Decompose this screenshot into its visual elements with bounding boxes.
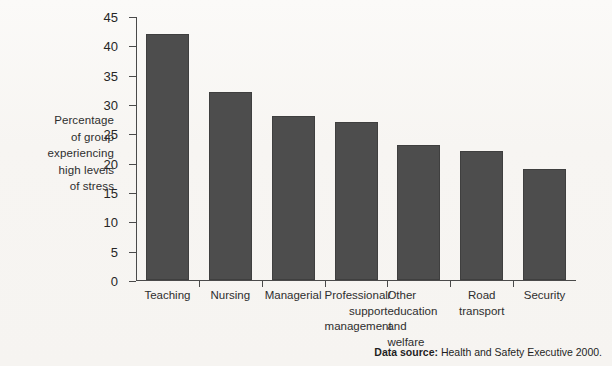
x-axis-label-line: support [325, 304, 388, 320]
source-note: Data source: Health and Safety Executive… [374, 346, 602, 358]
y-axis-line [136, 17, 137, 281]
y-axis-title-line: high levels [18, 162, 114, 179]
y-axis-tick: 45 [129, 17, 136, 18]
y-axis-tick: 5 [129, 252, 136, 253]
bar [335, 122, 378, 280]
y-axis-tick-label: 25 [104, 127, 118, 142]
x-axis-label-line: Security [513, 288, 576, 304]
y-axis-tick: 15 [129, 193, 136, 194]
y-axis-tick-label: 20 [104, 156, 118, 171]
x-axis-label: Security [513, 288, 576, 304]
x-axis-tick [262, 281, 263, 287]
y-axis-tick: 25 [129, 134, 136, 135]
bar [272, 116, 315, 280]
x-axis-label: Roadtransport [450, 288, 513, 319]
bar [146, 34, 189, 280]
x-axis-label-line: Professional/ [325, 288, 388, 304]
y-axis-title-line: of stress [18, 178, 114, 195]
source-text: Health and Safety Executive 2000. [441, 346, 602, 358]
bar [523, 169, 566, 280]
x-axis-tick [387, 281, 388, 287]
plot-area: 051015202530354045 [136, 17, 576, 281]
x-axis-label-line: transport [450, 304, 513, 320]
x-axis-label-line: Other [387, 288, 450, 304]
y-axis-tick-label: 35 [104, 68, 118, 83]
x-axis-tick [325, 281, 326, 287]
bar [397, 145, 440, 280]
y-axis-title-line: of group [18, 129, 114, 146]
x-axis-tick [513, 281, 514, 287]
y-axis-tick: 10 [129, 222, 136, 223]
source-label: Data source: [374, 346, 438, 358]
y-axis-tick-label: 40 [104, 39, 118, 54]
y-axis-title-line: Percentage [18, 112, 114, 129]
x-axis-label-line: education [387, 304, 450, 320]
x-axis-label-line: management [325, 319, 388, 335]
y-axis-tick-label: 10 [104, 215, 118, 230]
x-axis-line [136, 280, 576, 281]
x-axis-label-line: Teaching [136, 288, 199, 304]
x-axis-tick [450, 281, 451, 287]
y-axis-tick-label: 45 [104, 10, 118, 25]
y-axis-tick-label: 0 [111, 274, 118, 289]
y-axis-tick: 20 [129, 164, 136, 165]
x-axis-tick [199, 281, 200, 287]
x-axis-label: Professional/supportmanagement [325, 288, 388, 335]
bar [209, 92, 252, 280]
x-axis-label: Nursing [199, 288, 262, 304]
y-axis-tick-label: 30 [104, 98, 118, 113]
x-axis-label-line: Managerial [262, 288, 325, 304]
y-axis-tick: 40 [129, 46, 136, 47]
x-axis-label-line: and [387, 319, 450, 335]
x-axis-label: Othereducationandwelfare [387, 288, 450, 350]
y-axis-title: Percentage of group experiencing high le… [18, 112, 114, 195]
y-axis-tick: 0 [129, 281, 136, 282]
x-axis-label-line: Road [450, 288, 513, 304]
y-axis-tick: 35 [129, 76, 136, 77]
x-axis-label: Teaching [136, 288, 199, 304]
y-axis-tick-label: 15 [104, 186, 118, 201]
x-axis-label-line: Nursing [199, 288, 262, 304]
figure-canvas: Percentage of group experiencing high le… [0, 0, 612, 366]
y-axis-tick-label: 5 [111, 244, 118, 259]
x-axis-label: Managerial [262, 288, 325, 304]
y-axis-tick: 30 [129, 105, 136, 106]
y-axis-title-line: experiencing [18, 145, 114, 162]
bar [460, 151, 503, 280]
